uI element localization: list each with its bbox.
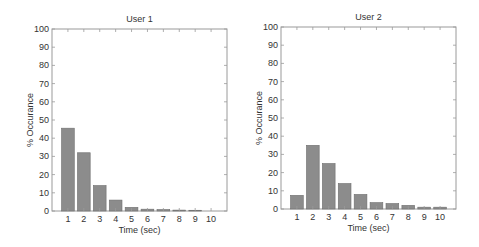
x-tick-label: 10 bbox=[206, 214, 216, 224]
x-tick-label: 4 bbox=[113, 214, 118, 224]
x-tick-label: 3 bbox=[326, 212, 331, 222]
bar-3 bbox=[93, 186, 106, 211]
x-tick-label: 4 bbox=[342, 212, 347, 222]
y-tick-label: 80 bbox=[39, 60, 49, 70]
chart-panel-1: 010203040506070809010012345678910User 1T… bbox=[25, 14, 227, 235]
x-axis-label: Time (sec) bbox=[118, 225, 160, 235]
x-tick-label: 8 bbox=[177, 214, 182, 224]
x-tick-label: 2 bbox=[81, 214, 86, 224]
y-tick-label: 10 bbox=[39, 188, 49, 198]
y-tick-label: 100 bbox=[263, 22, 278, 32]
x-tick-label: 7 bbox=[390, 212, 395, 222]
x-tick-label: 6 bbox=[145, 214, 150, 224]
y-tick-label: 70 bbox=[268, 77, 278, 87]
y-tick-label: 90 bbox=[39, 42, 49, 52]
bar-4 bbox=[338, 184, 351, 209]
x-axis-label: Time (sec) bbox=[347, 223, 389, 233]
y-tick-label: 0 bbox=[273, 204, 278, 214]
x-tick-label: 5 bbox=[129, 214, 134, 224]
y-tick-label: 50 bbox=[39, 115, 49, 125]
y-tick-label: 40 bbox=[39, 133, 49, 143]
y-tick-label: 60 bbox=[39, 97, 49, 107]
x-tick-label: 6 bbox=[374, 212, 379, 222]
chart-panel-2: 010203040506070809010012345678910User 2T… bbox=[254, 12, 456, 233]
x-tick-label: 10 bbox=[435, 212, 445, 222]
y-tick-label: 20 bbox=[39, 170, 49, 180]
bar-2 bbox=[77, 153, 90, 211]
x-tick-label: 9 bbox=[193, 214, 198, 224]
y-tick-label: 20 bbox=[268, 168, 278, 178]
y-tick-label: 80 bbox=[268, 58, 278, 68]
bar-2 bbox=[306, 145, 319, 209]
x-tick-label: 7 bbox=[161, 214, 166, 224]
x-tick-label: 9 bbox=[422, 212, 427, 222]
y-tick-label: 90 bbox=[268, 40, 278, 50]
y-tick-label: 30 bbox=[268, 149, 278, 159]
bar-1 bbox=[62, 128, 75, 211]
x-tick-label: 3 bbox=[97, 214, 102, 224]
x-tick-label: 2 bbox=[310, 212, 315, 222]
x-tick-label: 1 bbox=[294, 212, 299, 222]
y-tick-label: 100 bbox=[34, 24, 49, 34]
y-tick-label: 10 bbox=[268, 186, 278, 196]
y-axis-label: % Occurance bbox=[254, 91, 264, 145]
y-tick-label: 70 bbox=[39, 79, 49, 89]
y-tick-label: 50 bbox=[268, 113, 278, 123]
chart-figure: 010203040506070809010012345678910User 1T… bbox=[0, 0, 479, 247]
bar-3 bbox=[322, 164, 335, 210]
chart-title: User 1 bbox=[126, 14, 153, 24]
y-tick-label: 40 bbox=[268, 131, 278, 141]
y-tick-label: 30 bbox=[39, 151, 49, 161]
y-tick-label: 0 bbox=[44, 206, 49, 216]
x-tick-label: 8 bbox=[406, 212, 411, 222]
chart-title: User 2 bbox=[355, 12, 382, 22]
y-tick-label: 60 bbox=[268, 95, 278, 105]
x-tick-label: 5 bbox=[358, 212, 363, 222]
x-tick-label: 1 bbox=[65, 214, 70, 224]
y-axis-label: % Occurance bbox=[25, 93, 35, 147]
